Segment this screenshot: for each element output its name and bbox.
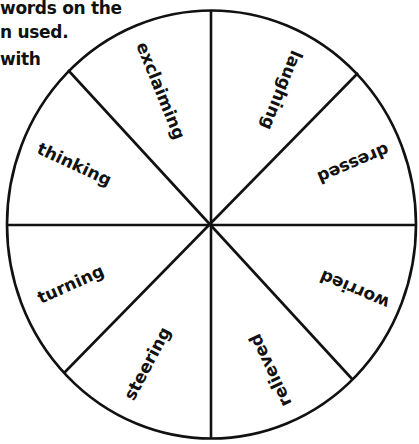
instruction-line-2: n used. [0, 24, 68, 41]
word-wheel: exclaiming laughing dressed worried reli… [0, 0, 419, 444]
instruction-line-1: words on the [0, 0, 122, 17]
instruction-line-3: with [0, 51, 41, 68]
